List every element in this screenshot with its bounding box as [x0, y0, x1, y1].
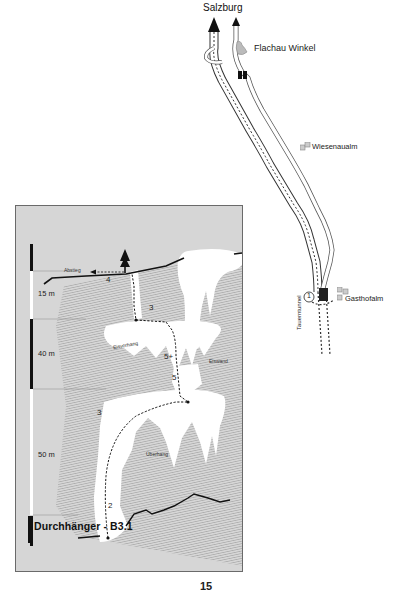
- pitch-grade: 5: [172, 373, 176, 382]
- place-label-flachau-winkel: Flachau Winkel: [254, 43, 316, 53]
- tunnel-portal-icon: [238, 70, 248, 80]
- feature-label-ueberhang: Überhang: [146, 451, 168, 457]
- route-name-bar: [28, 516, 31, 543]
- scale-label-15m: 15 m: [38, 289, 55, 298]
- tree-icon: [120, 249, 130, 273]
- page-number: 15: [200, 580, 212, 592]
- scale-label-40m: 40 m: [38, 349, 55, 358]
- pitch-grade: 5+: [164, 352, 173, 361]
- route-name: Durchhänger - B3.1: [34, 520, 133, 532]
- place-label-gasthofalm: Gasthofalm: [345, 294, 383, 303]
- tunnel-label: Tauerntunnel: [296, 295, 302, 330]
- village-icon: [235, 40, 249, 56]
- scale-label-50m: 50 m: [38, 450, 55, 459]
- topo-panel: 15 m 40 m 50 m Abstieg 4 3 5+ 5 3 2 Eisv…: [15, 205, 243, 572]
- building-icon: [300, 142, 312, 152]
- feature-label-eiswand: Eiswand: [209, 358, 228, 364]
- descent-label: Abstieg: [64, 267, 81, 273]
- parking-icon: [319, 288, 329, 302]
- pitch-grade: 4: [106, 275, 110, 284]
- place-label-wiesenaualm: Wiesenaualm: [312, 142, 357, 151]
- start-marker-number: 1: [307, 292, 311, 299]
- direction-label: Salzburg: [203, 2, 242, 13]
- pitch-grade: 3: [149, 303, 153, 312]
- pitch-grade: 2: [108, 501, 112, 510]
- pitch-grade: 3: [97, 408, 101, 417]
